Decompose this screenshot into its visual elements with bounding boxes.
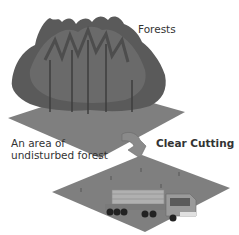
diagram-illustration: [0, 0, 239, 235]
label-clear-cutting: Clear Cutting: [156, 137, 234, 149]
label-forests: Forests: [138, 23, 176, 35]
arrow-icon: [122, 132, 146, 158]
label-undisturbed-line1: An area of: [11, 137, 65, 149]
label-undisturbed-line2: undisturbed forest: [11, 149, 108, 161]
